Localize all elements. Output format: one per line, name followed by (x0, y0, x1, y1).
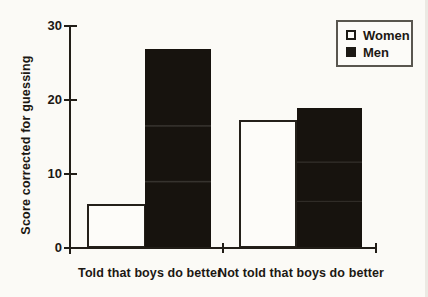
category-label-not-told: Not told that boys do better (218, 266, 384, 280)
bar-women-group2 (239, 120, 297, 248)
y-tick-10 (64, 173, 77, 175)
bar-chart-figure: Score corrected for guessing Told that b… (0, 0, 428, 297)
y-tick-label-30: 30 (32, 20, 62, 32)
legend-item-men: Men (346, 46, 411, 59)
y-tick-label-0: 0 (32, 242, 62, 254)
legend-label-men: Men (363, 46, 389, 59)
y-axis-line (69, 25, 71, 254)
y-axis-title: Score corrected for guessing (19, 55, 33, 234)
bar-men-group1 (145, 49, 211, 248)
y-tick-label-20: 20 (32, 94, 62, 106)
legend: Women Men (336, 20, 413, 67)
women-open-square-icon (346, 30, 356, 40)
y-tick-0 (64, 247, 77, 249)
legend-label-women: Women (363, 29, 410, 42)
y-tick-20 (64, 99, 77, 101)
x-axis-tick-right (375, 243, 377, 253)
men-filled-square-icon (346, 47, 356, 57)
bar-women-group1 (87, 204, 146, 248)
bar-men-group2 (297, 108, 362, 248)
y-tick-label-10: 10 (32, 168, 62, 180)
y-tick-30 (64, 25, 77, 27)
legend-item-women: Women (346, 29, 411, 42)
x-axis-tick-middle (222, 243, 224, 253)
category-label-told: Told that boys do better (78, 266, 222, 280)
